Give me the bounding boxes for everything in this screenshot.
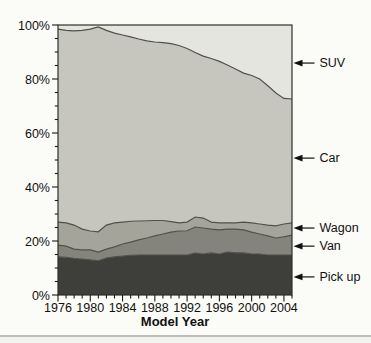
y-tick-label: 20% <box>25 235 50 249</box>
x-tick-label: 1988 <box>141 301 169 315</box>
y-tick-label: 40% <box>25 181 50 195</box>
stacked-area-chart: 0%20%40%60%80%100%1976198019841988199219… <box>0 0 371 343</box>
annotation-label-wagon: Wagon <box>320 221 359 235</box>
y-tick-label: 100% <box>18 19 50 33</box>
x-tick-label: 2004 <box>270 301 298 315</box>
left-arrow-icon <box>294 60 303 67</box>
x-tick-label: 1996 <box>205 301 233 315</box>
annotation-label-car: Car <box>320 151 340 165</box>
x-tick-label: 1984 <box>109 301 137 315</box>
x-tick-label: 1980 <box>76 301 104 315</box>
annotation-label-van: Van <box>320 239 341 253</box>
annotation-label-pick-up: Pick up <box>320 270 361 284</box>
left-arrow-icon <box>294 274 303 281</box>
page-edge-strip <box>0 337 371 343</box>
x-tick-label: 1976 <box>44 301 72 315</box>
left-arrow-icon <box>294 225 303 232</box>
y-tick-label: 60% <box>25 127 50 141</box>
x-tick-label: 1992 <box>173 301 201 315</box>
left-arrow-icon <box>294 155 303 162</box>
annotation-label-suv: SUV <box>320 56 346 70</box>
x-axis-title: Model Year <box>141 314 209 329</box>
chart-figure: 0%20%40%60%80%100%1976198019841988199219… <box>0 0 371 343</box>
left-arrow-icon <box>294 243 303 250</box>
y-tick-label: 80% <box>25 73 50 87</box>
x-tick-label: 2000 <box>238 301 266 315</box>
